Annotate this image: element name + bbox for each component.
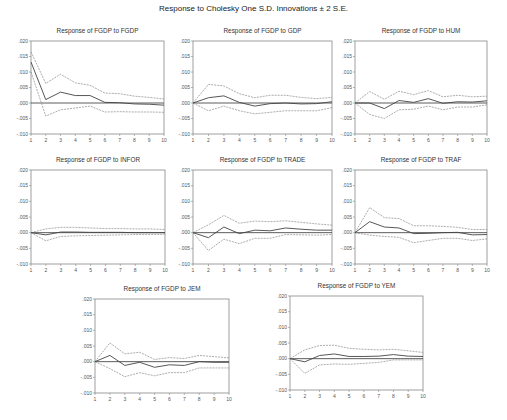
- y-tick-label: -.005: [179, 115, 191, 121]
- y-tick-label: -.010: [17, 261, 29, 267]
- y-tick-label: .010: [277, 324, 287, 330]
- y-tick-label: .000: [82, 358, 92, 364]
- panel-title: Response of FGDP to JEM: [124, 285, 201, 293]
- x-tick-label: 1: [30, 267, 33, 273]
- panel-title: Response of FGDP to TRADE: [220, 156, 306, 164]
- panel-title: Response of FGDP to INFOR: [56, 156, 140, 164]
- response-line: [290, 354, 423, 362]
- x-tick-label: 7: [442, 137, 445, 143]
- x-tick-label: 3: [59, 137, 62, 143]
- x-tick-label: 9: [471, 267, 474, 273]
- y-tick-label: .020: [342, 38, 352, 44]
- y-tick-label: -.005: [276, 371, 288, 377]
- y-tick-label: .015: [180, 53, 190, 59]
- y-tick-label: .000: [180, 100, 190, 106]
- x-tick-label: 1: [192, 267, 195, 273]
- x-tick-label: 3: [318, 393, 321, 399]
- x-tick-label: 4: [138, 396, 141, 402]
- y-tick-label: .010: [82, 327, 92, 333]
- y-tick-label: .000: [180, 229, 190, 235]
- x-tick-label: 7: [284, 267, 287, 273]
- y-tick-label: .005: [277, 340, 287, 346]
- x-tick-label: 4: [398, 267, 401, 273]
- plot-frame: [193, 41, 332, 134]
- panel-8: Response of FGDP to YEM.020.015.010.005.…: [276, 282, 426, 399]
- y-tick-label: -.010: [179, 261, 191, 267]
- x-tick-label: 10: [226, 396, 232, 402]
- y-tick-label: .010: [18, 69, 28, 75]
- y-tick-label: -.005: [341, 245, 353, 251]
- y-tick-label: .020: [18, 167, 28, 173]
- x-tick-label: 1: [354, 137, 357, 143]
- x-tick-label: 2: [303, 393, 306, 399]
- x-tick-label: 1: [30, 137, 33, 143]
- x-tick-label: 10: [161, 137, 167, 143]
- upper-band-line: [355, 91, 487, 103]
- x-tick-label: 3: [383, 137, 386, 143]
- y-tick-label: .010: [342, 198, 352, 204]
- x-tick-label: 8: [456, 267, 459, 273]
- y-tick-label: -.005: [341, 115, 353, 121]
- y-tick-label: .000: [342, 229, 352, 235]
- y-tick-label: .020: [180, 167, 190, 173]
- y-tick-label: -.010: [276, 387, 288, 393]
- y-tick-label: .015: [18, 182, 28, 188]
- y-tick-label: -.005: [81, 374, 93, 380]
- panel-title: Response of FGDP to YEM: [318, 282, 396, 290]
- x-tick-label: 5: [153, 396, 156, 402]
- x-tick-label: 6: [168, 396, 171, 402]
- x-tick-label: 4: [238, 267, 241, 273]
- x-tick-label: 7: [377, 393, 380, 399]
- y-tick-label: .005: [342, 214, 352, 220]
- x-tick-label: 2: [368, 137, 371, 143]
- x-tick-label: 10: [484, 137, 490, 143]
- x-tick-label: 7: [119, 267, 122, 273]
- y-tick-label: .010: [342, 69, 352, 75]
- x-tick-label: 5: [89, 267, 92, 273]
- plot-frame: [355, 41, 487, 134]
- x-tick-label: 10: [329, 137, 335, 143]
- x-tick-label: 6: [362, 393, 365, 399]
- x-tick-label: 9: [315, 267, 318, 273]
- panel-6: Response of FGDP to TRAF.020.015.010.005…: [341, 156, 490, 273]
- x-tick-label: 4: [74, 267, 77, 273]
- y-tick-label: .005: [18, 214, 28, 220]
- panel-4: Response of FGDP to INFOR.020.015.010.00…: [17, 156, 168, 273]
- x-tick-label: 10: [420, 393, 426, 399]
- y-tick-label: .020: [277, 293, 287, 299]
- y-tick-label: -.010: [179, 131, 191, 137]
- x-tick-label: 5: [412, 267, 415, 273]
- x-tick-label: 4: [398, 137, 401, 143]
- x-tick-label: 7: [118, 137, 121, 143]
- x-tick-label: 8: [134, 267, 137, 273]
- panel-7: Response of FGDP to JEM.020.015.010.005.…: [81, 285, 232, 402]
- panel-1: Response of FGDP to FGDP.020.015.010.005…: [17, 27, 167, 143]
- y-tick-label: .015: [277, 308, 287, 314]
- y-tick-label: -.010: [81, 390, 93, 396]
- y-tick-label: .015: [180, 182, 190, 188]
- x-tick-label: 2: [207, 137, 210, 143]
- x-tick-label: 2: [207, 267, 210, 273]
- y-tick-label: .020: [180, 38, 190, 44]
- x-tick-label: 6: [104, 267, 107, 273]
- y-tick-label: .020: [82, 296, 92, 302]
- panel-title: Response of FGDP to GDP: [223, 27, 301, 35]
- plot-frame: [290, 296, 423, 390]
- x-tick-label: 1: [94, 396, 97, 402]
- y-tick-label: .005: [180, 214, 190, 220]
- lower-band-line: [193, 233, 332, 251]
- x-tick-label: 9: [315, 137, 318, 143]
- y-tick-label: .020: [18, 38, 28, 44]
- lower-band-line: [95, 362, 229, 377]
- plot-frame: [355, 170, 487, 264]
- panel-title: Response of FGDP to TRAF: [381, 156, 462, 164]
- y-tick-label: .005: [82, 343, 92, 349]
- y-tick-label: .010: [180, 69, 190, 75]
- plot-frame: [95, 299, 229, 393]
- x-tick-label: 1: [289, 393, 292, 399]
- panel-2: Response of FGDP to GDP.020.015.010.005.…: [179, 27, 335, 143]
- y-tick-label: .005: [180, 84, 190, 90]
- y-tick-label: .005: [18, 84, 28, 90]
- x-tick-label: 8: [198, 396, 201, 402]
- x-tick-label: 9: [148, 137, 151, 143]
